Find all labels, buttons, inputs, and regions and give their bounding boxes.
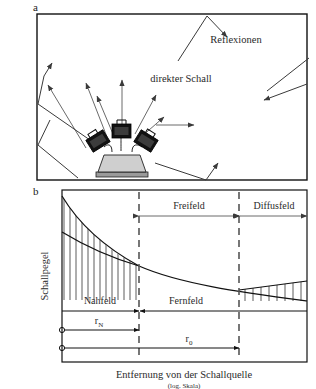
reflexionen-label: Reflexionen xyxy=(210,34,262,45)
stand-body xyxy=(98,155,146,172)
diffusfeld-label: Diffusfeld xyxy=(254,200,295,211)
figure-container: a b xyxy=(0,0,316,389)
x-axis-label: Entfernung von der Schallquelle xyxy=(116,369,253,380)
y-axis-label: Schallpegel xyxy=(39,251,50,300)
room-outline xyxy=(37,14,307,180)
panel-a-label: a xyxy=(33,2,38,13)
panel-b-group: Freifeld Diffusfeld Nahfeld Fernfeld rN … xyxy=(39,190,307,389)
freifeld-label: Freifeld xyxy=(173,200,205,211)
figure-svg: Reflexionen direkter Schall xyxy=(0,0,316,389)
fernfeld-label: Fernfeld xyxy=(169,295,203,306)
stand-base xyxy=(96,172,148,177)
panel-b-label: b xyxy=(33,186,39,197)
panel-a-group: Reflexionen direkter Schall xyxy=(37,14,309,180)
nahfeld-label: Nahfeld xyxy=(84,295,116,306)
speaker-center-grille xyxy=(115,127,129,135)
x-axis-sublabel: (log. Skala) xyxy=(168,382,201,389)
direkter-schall-label: direkter Schall xyxy=(150,73,212,84)
